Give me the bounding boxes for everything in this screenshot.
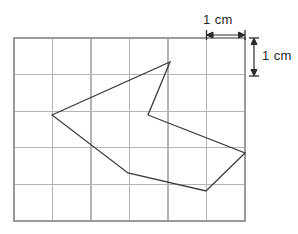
vertical-scale-label: 1 cm [262,49,292,62]
vertical-scale-arrowhead-top [251,38,257,45]
horizontal-scale-arrowhead-right [239,32,246,38]
grid-inner-lines [14,38,245,221]
horizontal-scale-arrowhead-left [207,32,214,38]
vertical-scale-arrow [249,38,259,76]
figure-canvas: 1 cm 1 cm [0,0,298,234]
vertical-scale-arrowhead-bottom [251,70,257,77]
polygon-shape [52,62,245,191]
grid-and-polygon-diagram [0,0,298,234]
horizontal-scale-label: 1 cm [203,13,233,26]
